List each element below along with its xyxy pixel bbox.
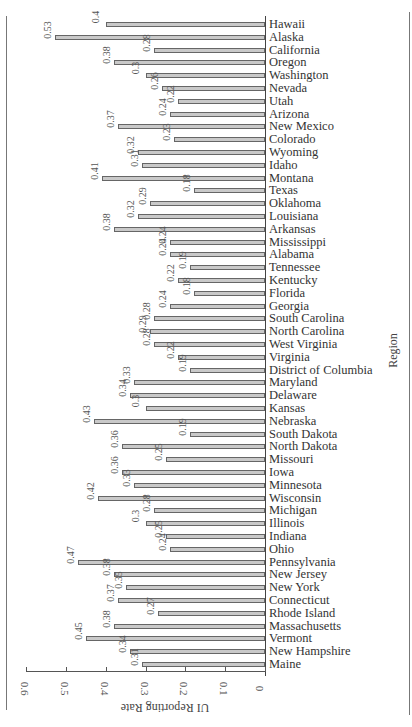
category-label: Alaska	[269, 31, 304, 44]
value-label: 0.33	[122, 469, 132, 487]
x-tick	[225, 667, 226, 672]
value-label: 0.25	[154, 443, 164, 461]
bar	[114, 572, 265, 577]
bar	[134, 380, 265, 385]
value-label: 0.24	[157, 533, 167, 551]
bar	[146, 73, 265, 78]
category-label: Arkansas	[269, 223, 316, 236]
x-tick-label: 0.3	[139, 682, 150, 696]
bar	[194, 188, 265, 193]
value-label: 0.24	[157, 290, 167, 308]
category-label: Minnesota	[269, 479, 322, 492]
value-label: 0.53	[42, 21, 52, 39]
category-label: Nebraska	[269, 415, 316, 428]
value-label: 0.24	[157, 239, 167, 257]
value-label: 0.41	[90, 162, 100, 180]
value-label: 0.38	[102, 213, 112, 231]
bar	[126, 585, 265, 590]
category-label: Florida	[269, 287, 305, 300]
bar	[170, 547, 265, 552]
bar	[166, 457, 265, 462]
x-tick	[146, 667, 147, 672]
bar	[114, 624, 265, 629]
value-label: 0.24	[157, 98, 167, 116]
value-label: 0.32	[126, 200, 136, 218]
value-label: 0.34	[118, 379, 128, 397]
bar	[190, 368, 265, 373]
value-label: 0.3	[131, 395, 141, 408]
bar	[174, 137, 265, 142]
bar	[154, 508, 265, 513]
bar	[146, 406, 265, 411]
bar	[118, 124, 265, 129]
bar	[134, 483, 265, 488]
bar	[106, 22, 265, 27]
bar	[178, 99, 265, 104]
value-label: 0.22	[165, 264, 175, 282]
category-label: Ohio	[269, 543, 294, 556]
category-label: Idaho	[269, 159, 297, 172]
bar	[190, 432, 265, 437]
value-label: 0.31	[130, 648, 140, 666]
value-label: 0.36	[110, 456, 120, 474]
bar	[86, 636, 265, 641]
value-label: 0.3	[131, 62, 141, 75]
zero-axis-line	[265, 16, 266, 676]
value-label: 0.18	[181, 175, 191, 193]
x-tick-label: 0.4	[99, 682, 110, 696]
value-label: 0.19	[177, 251, 187, 269]
value-label: 0.28	[142, 34, 152, 52]
x-tick-label: 0.5	[59, 682, 70, 696]
bar	[162, 86, 265, 91]
x-tick-label: 0.2	[179, 682, 190, 696]
value-label: 0.38	[102, 47, 112, 65]
bar	[122, 444, 265, 449]
value-label: 0.42	[86, 482, 96, 500]
x-tick	[106, 667, 107, 672]
bar	[190, 265, 265, 270]
value-label: 0.43	[82, 405, 92, 423]
bar	[130, 649, 265, 654]
x-tick	[265, 667, 266, 672]
value-label: 0.4	[91, 11, 101, 24]
y-axis-title: Region	[386, 326, 401, 376]
value-label: 0.3	[131, 510, 141, 523]
x-tick-label: 0.1	[219, 682, 230, 696]
value-label: 0.29	[138, 187, 148, 205]
value-label: 0.28	[142, 495, 152, 513]
bar	[154, 48, 265, 53]
value-label: 0.38	[102, 610, 112, 628]
bar	[158, 611, 265, 616]
bar	[130, 393, 265, 398]
bar	[170, 240, 265, 245]
value-label: 0.45	[74, 623, 84, 641]
bar	[150, 201, 265, 206]
bar	[142, 163, 265, 168]
bar	[194, 291, 265, 296]
x-tick	[66, 667, 67, 672]
value-label: 0.34	[118, 635, 128, 653]
bar	[55, 35, 265, 40]
value-label: 0.38	[102, 559, 112, 577]
value-label: 0.37	[106, 584, 116, 602]
value-label: 0.36	[110, 431, 120, 449]
x-tick	[185, 667, 186, 672]
value-label: 0.18	[181, 277, 191, 295]
x-axis-title: UI Reporting Rate	[100, 700, 230, 715]
bar	[138, 214, 265, 219]
value-label: 0.31	[130, 149, 140, 167]
bar	[142, 662, 265, 667]
bar	[138, 150, 265, 155]
category-label: Virginia	[269, 351, 310, 364]
value-label: 0.19	[177, 354, 187, 372]
value-label: 0.26	[150, 72, 160, 90]
bar	[166, 534, 265, 539]
x-tick-label: 0	[254, 686, 265, 692]
value-label: 0.27	[146, 597, 156, 615]
value-label: 0.47	[66, 546, 76, 564]
bar-chart: 0.60.50.40.30.20.10 0.4Hawaii0.53Alaska0…	[0, 0, 412, 727]
category-label: Maine	[269, 658, 301, 671]
bar	[170, 304, 265, 309]
value-label: 0.28	[142, 328, 152, 346]
bar	[122, 470, 265, 475]
